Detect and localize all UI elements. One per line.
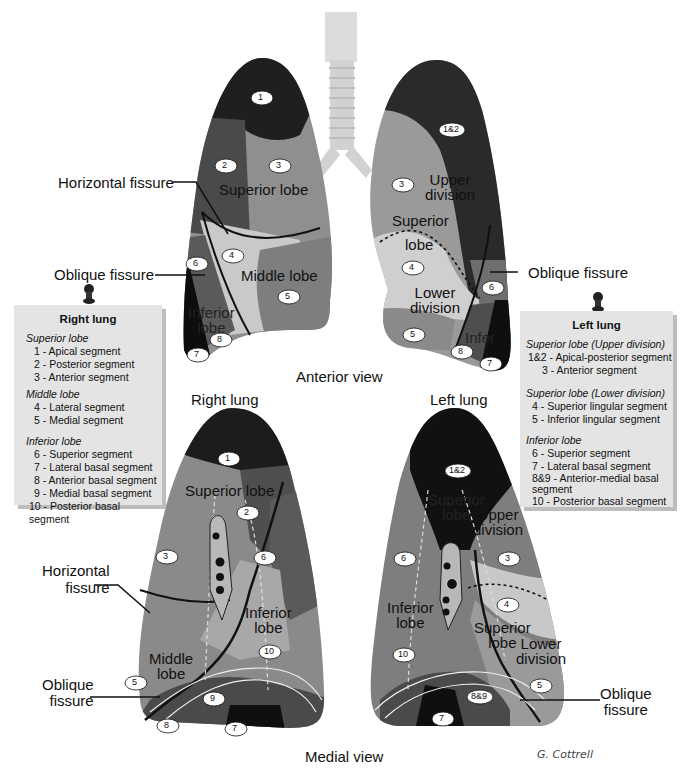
- legend-item: 1 - Apical segment: [26, 345, 162, 358]
- inferior-lobe-label: Inferior lobe: [387, 600, 434, 630]
- lung-segments-figure: 1 2 3 4 5 6 7 8 1&2 3 4 5 6 7 8 1 2 3 6 …: [0, 0, 693, 772]
- legend-title: Right lung: [14, 313, 162, 326]
- legend-item: 1&2 - Apical-posterior segment: [526, 351, 673, 364]
- segment-5: 5: [537, 680, 542, 690]
- upper-division-label: Upper division: [425, 172, 475, 202]
- segment-3: 3: [505, 553, 510, 563]
- lower-division-label: Lower division: [516, 636, 566, 666]
- legend-item: 5 - Inferior lingular segment: [526, 413, 673, 426]
- segment-1and2: 1&2: [449, 465, 465, 475]
- segment-8: 8: [458, 346, 463, 356]
- segment-7: 7: [194, 349, 199, 359]
- horizontal-fissure-callout: Horizontal fissure: [58, 174, 174, 191]
- legend-item: 3 - Anterior segment: [26, 371, 162, 384]
- segment-7: 7: [439, 713, 444, 723]
- segment-1: 1: [258, 92, 263, 102]
- segment-8and9: 8&9: [471, 691, 487, 701]
- legend-item: 6 - Superior segment: [526, 447, 673, 460]
- oblique-fissure-callout: Oblique fissure: [54, 266, 154, 283]
- pin-icon-left: [592, 292, 604, 312]
- segment-5: 5: [132, 677, 137, 687]
- segment-4: 4: [229, 250, 234, 260]
- legend-item: 6 - Superior segment: [26, 448, 162, 461]
- oblique-fissure-callout: Oblique fissure: [528, 264, 628, 281]
- segment-4: 4: [409, 262, 414, 272]
- upper-division-label: Upper division: [473, 507, 523, 537]
- segment-6: 6: [261, 552, 266, 562]
- segment-8: 8: [164, 720, 169, 730]
- anterior-view-title: Anterior view: [296, 368, 383, 385]
- horizontal-fissure-callout: Horizontal fissure: [42, 562, 110, 596]
- segment-10: 10: [264, 646, 274, 656]
- legend-item: 4 - Superior lingular segment: [526, 400, 673, 413]
- left-lung-legend: Left lung Superior lobe (Upper division)…: [520, 311, 673, 507]
- legend-item: 7 - Lateral basal segment: [26, 461, 162, 474]
- legend-item: 3 - Anterior segment: [526, 364, 673, 377]
- middle-lobe-label: Middle lobe: [149, 651, 193, 681]
- pin-icon-right: [83, 284, 95, 304]
- segment-6: 6: [489, 282, 494, 292]
- legend-item: 10 - Posterior basal segment: [26, 500, 162, 526]
- segment-6: 6: [401, 553, 406, 563]
- trachea: [310, 12, 372, 182]
- left-lung-title: Left lung: [430, 391, 488, 408]
- legend-group: Inferior lobe: [26, 435, 162, 448]
- segment-3: 3: [399, 179, 404, 189]
- medial-view-title: Medial view: [305, 748, 383, 765]
- legend-item: 9 - Medial basal segment: [26, 487, 162, 500]
- superior-lobe-label: Superior lobe: [219, 181, 308, 198]
- segment-3: 3: [163, 551, 168, 561]
- segment-6: 6: [193, 258, 198, 268]
- legend-item: 2 - Posterior segment: [26, 358, 162, 371]
- inferior-lobe-label: Inferior lobe: [188, 305, 235, 335]
- segment-3: 3: [276, 160, 281, 170]
- segment-10: 10: [398, 649, 408, 659]
- legend-group: Superior lobe (Upper division): [526, 338, 673, 351]
- right-lung-title: Right lung: [191, 391, 259, 408]
- legend-group: Middle lobe: [26, 388, 162, 401]
- legend-item: 4 - Lateral segment: [26, 401, 162, 414]
- segment-2: 2: [222, 160, 227, 170]
- artist-signature: G. Cottrell: [537, 748, 593, 761]
- segment-7: 7: [487, 358, 492, 368]
- superior-lobe-label-2: lobe: [405, 236, 433, 253]
- legend-item: 10 - Posterior basal segment: [526, 495, 673, 508]
- inferior-lobe-label: Inferior lobe: [245, 605, 292, 635]
- segment-1and2: 1&2: [443, 124, 459, 134]
- segment-7: 7: [232, 723, 237, 733]
- oblique-fissure-callout: Oblique fissure: [42, 677, 94, 709]
- segment-2: 2: [244, 507, 249, 517]
- legend-group: Superior lobe: [26, 332, 162, 345]
- middle-lobe-label: Middle lobe: [241, 267, 318, 284]
- segment-9: 9: [210, 693, 215, 703]
- legend-item: 5 - Medial segment: [26, 414, 162, 427]
- segment-1: 1: [225, 453, 230, 463]
- segment-4: 4: [504, 599, 509, 609]
- right-lung-legend: Right lung Superior lobe 1 - Apical segm…: [14, 305, 162, 505]
- legend-title: Left lung: [520, 319, 673, 332]
- legend-item: 8 - Anterior basal segment: [26, 474, 162, 487]
- legend-item: 8&9 - Anterior-medial basal segment: [526, 473, 667, 495]
- oblique-fissure-callout: Oblique fissure: [600, 686, 652, 718]
- segment-5: 5: [285, 291, 290, 301]
- legend-group: Superior lobe (Lower division): [526, 387, 673, 400]
- segment-5: 5: [410, 329, 415, 339]
- legend-group: Inferior lobe: [526, 434, 673, 447]
- inferior-lobe-label: Infer: [465, 329, 495, 346]
- superior-lobe-label: Superior lobe: [185, 482, 274, 499]
- lower-division-label: Lower division: [410, 285, 460, 315]
- superior-lobe-label: Superior: [392, 212, 449, 229]
